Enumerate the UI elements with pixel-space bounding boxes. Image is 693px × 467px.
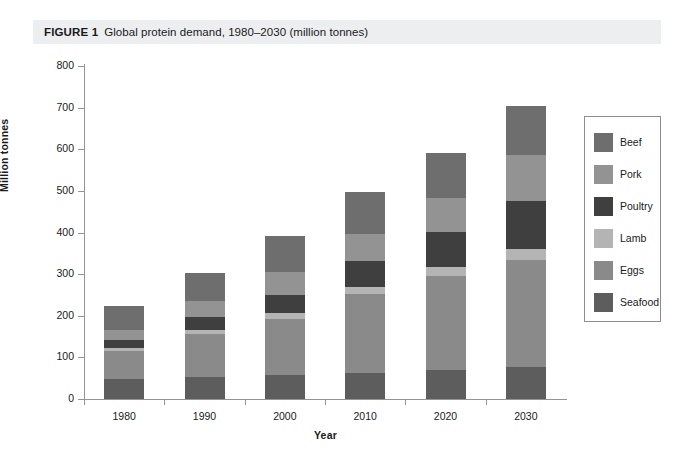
bar-segment-seafood: [506, 367, 546, 399]
bar-segment-seafood: [104, 379, 144, 399]
bar-segment-pork: [104, 330, 144, 340]
bar-segment-beef: [265, 236, 305, 271]
legend-item-beef[interactable]: Beef: [594, 126, 660, 158]
bar-segment-lamb: [345, 287, 385, 294]
bar-segment-seafood: [185, 377, 225, 399]
bar-segment-pork: [185, 301, 225, 317]
bar-segment-poultry: [265, 295, 305, 314]
legend-label: Pork: [620, 168, 642, 180]
y-axis-tick-label: 600: [56, 142, 74, 154]
bar-segment-lamb: [506, 249, 546, 261]
legend-swatch-seafood: [594, 293, 613, 312]
figure-number-label: FIGURE 1: [44, 26, 98, 38]
x-axis-tick-label: 2010: [335, 410, 395, 422]
chart-legend: BeefPorkPoultryLambEggsSeafood: [584, 116, 661, 322]
legend-item-seafood[interactable]: Seafood: [594, 286, 660, 318]
legend-item-pork[interactable]: Pork: [594, 158, 660, 190]
bar-segment-seafood: [426, 370, 466, 399]
x-axis-tick: [486, 399, 487, 405]
legend-item-poultry[interactable]: Poultry: [594, 190, 660, 222]
legend-label: Beef: [620, 136, 642, 148]
legend-swatch-poultry: [594, 197, 613, 216]
bar-segment-pork: [265, 272, 305, 295]
bar-2010[interactable]: [345, 192, 385, 399]
bar-segment-beef: [185, 273, 225, 301]
legend-label: Poultry: [620, 200, 653, 212]
bar-segment-eggs: [426, 276, 466, 370]
plot-area: [84, 66, 566, 399]
bar-segment-poultry: [185, 317, 225, 329]
x-axis-tick-label: 2000: [255, 410, 315, 422]
legend-swatch-pork: [594, 165, 613, 184]
bar-segment-pork: [345, 234, 385, 261]
bar-segment-poultry: [345, 261, 385, 287]
bar-segment-lamb: [426, 267, 466, 276]
y-axis-tick-label: 800: [56, 59, 74, 71]
bar-2030[interactable]: [506, 106, 546, 399]
bar-2020[interactable]: [426, 153, 466, 399]
legend-swatch-eggs: [594, 261, 613, 280]
bar-segment-eggs: [265, 319, 305, 375]
legend-label: Seafood: [620, 296, 659, 308]
bar-2000[interactable]: [265, 236, 305, 399]
bar-1980[interactable]: [104, 306, 144, 399]
x-axis-tick-label: 2020: [416, 410, 476, 422]
x-axis-tick: [325, 399, 326, 405]
y-axis-tick-label: 400: [56, 226, 74, 238]
y-axis-tick-label: 300: [56, 267, 74, 279]
bar-segment-poultry: [104, 340, 144, 347]
x-axis-tick: [245, 399, 246, 405]
bar-segment-beef: [506, 106, 546, 155]
x-axis-tick: [84, 399, 85, 405]
x-axis-tick: [164, 399, 165, 405]
figure-title: Global protein demand, 1980–2030 (millio…: [104, 26, 368, 38]
y-axis-title: Million tonnes: [0, 72, 10, 192]
bar-segment-seafood: [265, 375, 305, 399]
x-axis-tick-label: 2030: [496, 410, 556, 422]
legend-item-eggs[interactable]: Eggs: [594, 254, 660, 286]
bar-segment-eggs: [104, 351, 144, 379]
bar-segment-seafood: [345, 373, 385, 399]
bar-segment-poultry: [426, 232, 466, 267]
legend-label: Eggs: [620, 264, 644, 276]
y-axis-tick-label: 0: [68, 392, 74, 404]
y-axis-tick-label: 200: [56, 309, 74, 321]
bar-segment-poultry: [506, 201, 546, 249]
x-axis-title: Year: [84, 429, 567, 441]
x-axis-tick: [405, 399, 406, 405]
legend-label: Lamb: [620, 232, 646, 244]
y-axis-tick-label: 500: [56, 184, 74, 196]
y-axis-tick-label: 700: [56, 101, 74, 113]
legend-swatch-beef: [594, 133, 613, 152]
bar-segment-eggs: [185, 334, 225, 378]
x-axis-tick-label: 1980: [94, 410, 154, 422]
legend-swatch-lamb: [594, 229, 613, 248]
figure-caption-bar: FIGURE 1 Global protein demand, 1980–203…: [33, 20, 661, 44]
bar-1990[interactable]: [185, 273, 225, 399]
bar-segment-beef: [104, 306, 144, 330]
legend-item-lamb[interactable]: Lamb: [594, 222, 660, 254]
y-axis-tick-label: 100: [56, 350, 74, 362]
bar-segment-beef: [345, 192, 385, 234]
bar-segment-pork: [426, 198, 466, 232]
bar-segment-pork: [506, 155, 546, 201]
figure-page: FIGURE 1 Global protein demand, 1980–203…: [0, 0, 693, 467]
x-axis-tick-label: 1990: [175, 410, 235, 422]
bar-segment-eggs: [345, 294, 385, 373]
bar-segment-eggs: [506, 260, 546, 366]
bar-segment-beef: [426, 153, 466, 198]
